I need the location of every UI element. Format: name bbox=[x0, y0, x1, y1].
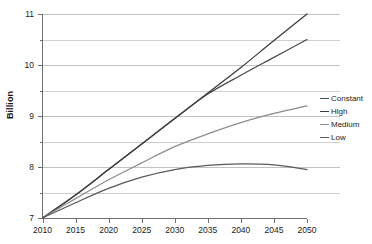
legend-item-constant[interactable]: Constant bbox=[320, 92, 363, 105]
series-line-constant bbox=[43, 40, 308, 219]
legend-item-high[interactable]: High bbox=[320, 105, 363, 118]
legend-item-medium[interactable]: Medium bbox=[320, 118, 363, 131]
series-line-high bbox=[43, 14, 308, 218]
series-line-medium bbox=[43, 106, 308, 218]
legend-swatch-icon bbox=[320, 124, 329, 126]
legend-label: Medium bbox=[331, 121, 359, 129]
legend-item-low[interactable]: Low bbox=[320, 131, 363, 144]
legend-label: Constant bbox=[331, 95, 363, 103]
legend-swatch-icon bbox=[320, 98, 329, 100]
chart-legend: ConstantHighMediumLow bbox=[320, 92, 363, 144]
legend-swatch-icon bbox=[320, 137, 329, 139]
legend-label: High bbox=[331, 108, 347, 116]
series-line-low bbox=[43, 164, 308, 218]
legend-swatch-icon bbox=[320, 111, 329, 113]
plot-area bbox=[0, 0, 372, 244]
line-chart: Billion 7891011 201020152020202520302035… bbox=[0, 0, 372, 244]
legend-label: Low bbox=[331, 134, 346, 142]
